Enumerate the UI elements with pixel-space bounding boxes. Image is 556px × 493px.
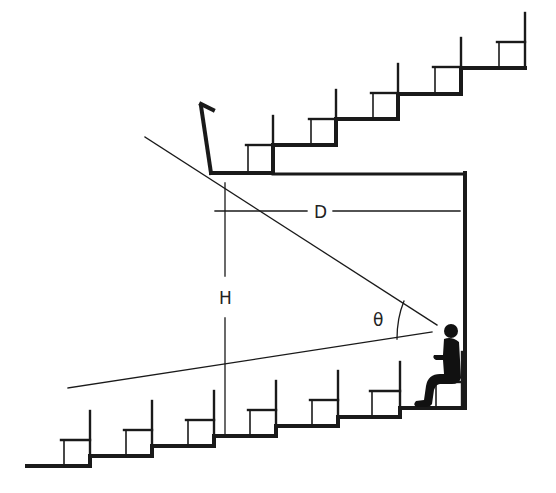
upper-tier-chairs (246, 13, 525, 173)
distance-label: D (314, 202, 327, 222)
upper-sight-line (145, 137, 437, 325)
seated-viewer-icon (414, 324, 461, 407)
angle-label: θ (373, 310, 383, 330)
upper-tier-floor (211, 68, 525, 173)
angle-arc (397, 301, 404, 339)
height-label: H (219, 288, 232, 308)
balcony-parapet-wall (201, 106, 211, 173)
lower-sight-line (68, 332, 432, 388)
auditorium-section-diagram: D H θ (0, 0, 556, 493)
